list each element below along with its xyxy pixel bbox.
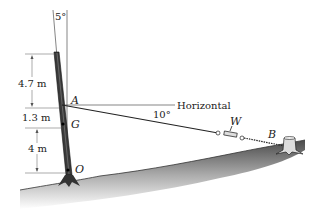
weight-turnbuckle [224, 131, 237, 137]
dim-upper-label: 4.7 m [18, 78, 47, 89]
angle-5-label: 5° [55, 11, 66, 22]
ground [20, 140, 305, 209]
point-b-label: B [267, 128, 276, 141]
weight-label: W [230, 115, 243, 128]
dim-middle-label: 1.3 m [22, 112, 51, 123]
point-o-marker [66, 168, 69, 171]
chain [244, 138, 285, 146]
point-o-label: O [75, 163, 84, 176]
point-g-marker [61, 122, 64, 125]
point-g-label: G [71, 118, 80, 131]
dim-lower-label: 4 m [28, 143, 48, 154]
pole-cable-diagram: Horizontal W B 5° 10° A G O 4.7 m 1.3 m … [0, 0, 324, 209]
point-a-label: A [70, 94, 79, 107]
angle-10-label: 10° [153, 109, 171, 120]
horizontal-label: Horizontal [177, 100, 231, 111]
